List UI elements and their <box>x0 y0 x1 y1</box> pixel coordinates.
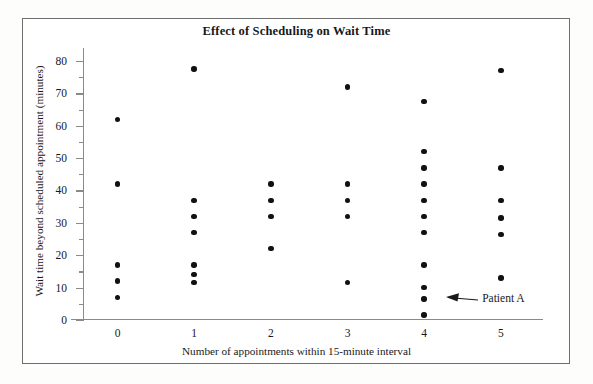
data-point <box>498 165 503 170</box>
x-tick-label-0: 0 <box>115 327 121 339</box>
y-tick-30: 30 <box>76 223 84 224</box>
x-axis-line <box>71 319 543 320</box>
y-tick-40: 40 <box>76 190 84 191</box>
data-point <box>421 198 426 203</box>
data-point <box>421 165 426 170</box>
y-axis-label: Wait time beyond scheduled appointment (… <box>33 56 45 306</box>
y-tick-label-0: 0 <box>61 314 67 326</box>
data-point <box>421 312 426 317</box>
y-tick-80: 80 <box>76 61 84 62</box>
y-minor-tick-35 <box>79 207 84 208</box>
data-point <box>421 296 426 301</box>
y-minor-tick-5 <box>79 304 84 305</box>
data-point <box>191 198 196 203</box>
x-tick-label-1: 1 <box>191 327 197 339</box>
data-point <box>115 262 120 267</box>
y-tick-20: 20 <box>76 255 84 256</box>
x-tick-label-3: 3 <box>345 327 351 339</box>
data-point <box>345 84 350 89</box>
y-minor-tick-45 <box>79 174 84 175</box>
data-point <box>268 198 273 203</box>
data-point <box>421 262 426 267</box>
y-tick-70: 70 <box>76 93 84 94</box>
figure-canvas: Effect of Scheduling on Wait Time Wait t… <box>0 0 593 384</box>
data-point <box>191 262 196 267</box>
y-tick-label-40: 40 <box>56 184 68 196</box>
data-point <box>421 149 426 154</box>
y-tick-label-30: 30 <box>56 217 68 229</box>
y-tick-label-80: 80 <box>56 55 68 67</box>
y-axis-line <box>83 48 84 320</box>
data-point <box>498 232 503 237</box>
data-point <box>191 230 196 235</box>
y-tick-10: 10 <box>76 288 84 289</box>
y-tick-0: 0 <box>76 320 84 321</box>
data-point <box>345 214 350 219</box>
data-point <box>421 214 426 219</box>
x-tick-label-2: 2 <box>268 327 274 339</box>
y-tick-50: 50 <box>76 158 84 159</box>
data-point <box>345 198 350 203</box>
y-tick-label-70: 70 <box>56 87 68 99</box>
data-point <box>345 181 350 186</box>
chart-title: Effect of Scheduling on Wait Time <box>0 24 593 39</box>
y-minor-tick-55 <box>79 142 84 143</box>
y-minor-tick-65 <box>79 110 84 111</box>
data-point <box>421 285 426 290</box>
data-point <box>421 99 426 104</box>
data-point <box>268 246 273 251</box>
y-tick-label-20: 20 <box>56 249 68 261</box>
y-tick-60: 60 <box>76 126 84 127</box>
x-tick-label-5: 5 <box>498 327 504 339</box>
y-tick-label-60: 60 <box>56 120 68 132</box>
data-point <box>115 181 120 186</box>
data-point <box>115 117 120 122</box>
data-point <box>268 214 273 219</box>
y-minor-tick-75 <box>79 77 84 78</box>
y-tick-label-10: 10 <box>56 282 68 294</box>
data-point <box>498 275 503 280</box>
annotation-label-patient-a: Patient A <box>482 292 525 304</box>
data-point <box>498 68 503 73</box>
annotation-arrow-icon <box>428 291 480 307</box>
y-tick-label-50: 50 <box>56 152 68 164</box>
data-point <box>191 66 196 71</box>
data-point <box>191 214 196 219</box>
data-point <box>115 295 120 300</box>
data-point <box>115 278 120 283</box>
plot-area: 01020304050607080 012345 Patient A <box>83 48 543 320</box>
data-point <box>498 198 503 203</box>
y-minor-tick-15 <box>79 271 84 272</box>
data-point <box>191 280 196 285</box>
data-point <box>191 272 196 277</box>
data-point <box>268 181 273 186</box>
data-point <box>498 215 503 220</box>
y-minor-tick-25 <box>79 239 84 240</box>
x-tick-label-4: 4 <box>421 327 427 339</box>
data-point <box>345 280 350 285</box>
data-point <box>421 181 426 186</box>
data-point <box>421 230 426 235</box>
x-axis-label: Number of appointments within 15-minute … <box>0 345 593 357</box>
